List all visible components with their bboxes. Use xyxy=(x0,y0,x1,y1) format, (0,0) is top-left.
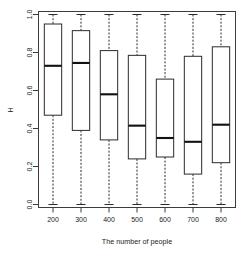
box-iqr xyxy=(156,79,173,157)
y-tick-label: 0.8 xyxy=(26,48,33,58)
boxplot-svg: 0.00.20.40.60.81.0 200300400500600700800… xyxy=(0,0,249,255)
box-iqr xyxy=(184,56,201,174)
x-tick-label: 600 xyxy=(159,216,171,223)
y-axis-title: H xyxy=(6,107,15,112)
x-tick-label: 400 xyxy=(103,216,115,223)
x-axis-title: The number of people xyxy=(102,237,172,246)
y-tick-label: 0.4 xyxy=(26,124,33,134)
x-tick-label: 800 xyxy=(215,216,227,223)
y-tick-label: 0.0 xyxy=(26,200,33,210)
y-tick-label: 1.0 xyxy=(26,10,33,20)
x-tick-label: 500 xyxy=(131,216,143,223)
figure-background xyxy=(0,0,249,255)
x-tick-label: 200 xyxy=(47,216,59,223)
box-iqr xyxy=(44,24,61,115)
y-tick-label: 0.6 xyxy=(26,86,33,96)
boxplot-figure: 0.00.20.40.60.81.0 200300400500600700800… xyxy=(0,0,249,255)
y-tick-label: 0.2 xyxy=(26,162,33,172)
x-tick-label: 300 xyxy=(75,216,87,223)
box-iqr xyxy=(72,31,89,131)
box-iqr xyxy=(212,47,229,163)
box-iqr xyxy=(128,55,145,159)
x-tick-label: 700 xyxy=(187,216,199,223)
